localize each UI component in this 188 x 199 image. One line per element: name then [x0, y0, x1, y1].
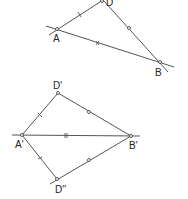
label-a: A	[53, 33, 60, 44]
segment-a1d2	[22, 135, 57, 179]
tick-d2b1-circle	[88, 159, 91, 162]
geometry-diagram: A B D A' B' D' D''	[0, 0, 188, 199]
label-b: B	[155, 67, 162, 78]
point-d2	[56, 178, 59, 181]
line-a1b1-extended	[12, 135, 140, 136]
figure-top: A B D	[46, 0, 174, 78]
segment-d1b1	[58, 93, 131, 136]
line-ab-extended	[46, 26, 174, 67]
point-a1	[21, 134, 24, 137]
segment-db	[103, 0, 168, 72]
point-b	[159, 61, 162, 64]
label-d2: D''	[55, 184, 66, 195]
figure-bottom: A' B' D' D''	[12, 80, 140, 195]
label-d1: D'	[53, 80, 62, 91]
point-b1	[130, 135, 133, 138]
tick-d1b1-circle	[88, 111, 91, 114]
label-a1: A'	[15, 139, 24, 150]
label-b1: B'	[129, 140, 138, 151]
tick-db-circle	[128, 27, 131, 30]
point-d	[101, 0, 104, 3]
point-d1	[57, 92, 60, 95]
point-a	[56, 28, 59, 31]
segment-a1d1	[22, 93, 58, 135]
label-d: D	[106, 0, 113, 8]
